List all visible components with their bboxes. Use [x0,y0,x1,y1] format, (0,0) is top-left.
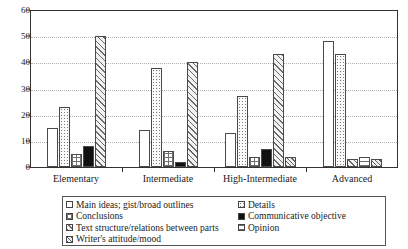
legend-item[interactable]: Conclusions [66,211,244,223]
legend-item[interactable]: Writer's attitude/mood [66,234,244,246]
x-tick-mark [214,168,215,172]
legend-label: Opinion [248,223,279,233]
legend-item[interactable]: Text structure/relations between parts [66,222,244,234]
bar [347,159,358,167]
bar-group-elementary [30,10,122,167]
legend-label: Writer's attitude/mood [76,234,161,244]
bar [71,154,82,167]
bar [261,149,272,167]
bar-group-intermediate [122,10,214,167]
bar [371,159,382,167]
legend-swatch-icon [66,236,73,243]
bar [47,128,58,167]
legend-label: Main ideas; gist/broad outlines [76,200,193,210]
chart-legend: Main ideas; gist/broad outlinesConclusio… [62,196,386,246]
legend-item[interactable]: Details [238,199,388,211]
bar [163,151,174,167]
bar [285,157,296,167]
legend-swatch-icon [66,213,73,220]
bar [359,157,370,167]
legend-label: Communicative objective [248,211,346,221]
y-axis: 0102030405060 [0,10,30,168]
x-tick-label-high-intermediate: High-Intermediate [223,173,297,185]
bar-chart: 0102030405060 ElementaryIntermediateHigh… [0,0,408,249]
legend-swatch-icon [238,224,245,231]
bar [95,36,106,167]
legend-swatch-icon [238,213,245,220]
bar [273,54,284,167]
bar [225,133,236,167]
legend-label: Text structure/relations between parts [76,223,219,233]
bar [59,107,70,167]
legend-swatch-icon [66,201,73,208]
bar [151,68,162,167]
x-tick-label-advanced: Advanced [332,173,373,185]
bars-layer [30,10,398,167]
bar [237,96,248,167]
legend-label: Details [248,200,275,210]
bar [175,162,186,167]
legend-column-left: Main ideas; gist/broad outlinesConclusio… [66,199,244,245]
x-tick-mark [306,168,307,172]
legend-item[interactable]: Main ideas; gist/broad outlines [66,199,244,211]
legend-label: Conclusions [76,211,123,221]
bar [249,157,260,167]
bar-group-high-intermediate [214,10,306,167]
legend-swatch-icon [66,224,73,231]
legend-item[interactable]: Communicative objective [238,211,388,223]
legend-column-right: DetailsCommunicative objectiveOpinion [238,199,388,234]
bar [335,54,346,167]
x-tick-label-intermediate: Intermediate [143,173,194,185]
bar [139,130,150,167]
x-tick-mark [122,168,123,172]
legend-swatch-icon [238,201,245,208]
bar-group-advanced [306,10,398,167]
x-tick-label-elementary: Elementary [53,173,99,185]
bar [83,146,94,167]
x-axis: ElementaryIntermediateHigh-IntermediateA… [30,168,398,190]
bar [323,41,334,167]
bar [187,62,198,167]
legend-item[interactable]: Opinion [238,222,388,234]
